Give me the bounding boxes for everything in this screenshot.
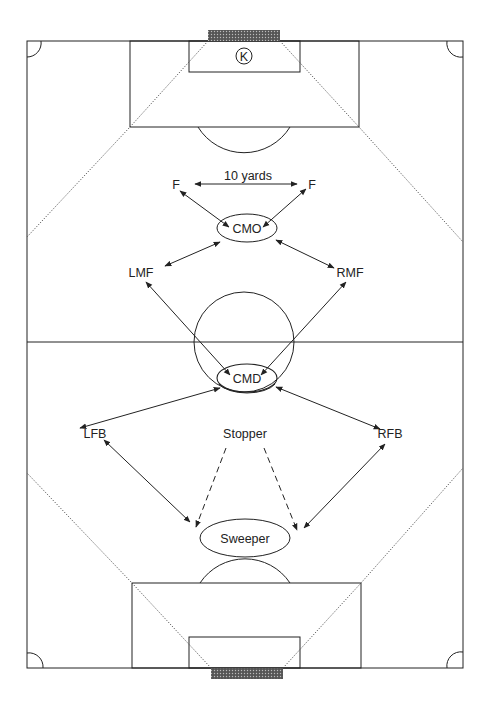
top-penalty-arc <box>198 127 290 153</box>
arrow-rfb-cmd <box>276 387 380 429</box>
arrow-rmf-cmo <box>276 240 334 268</box>
position-lfb: LFB <box>84 427 107 441</box>
arrow-stopper-right <box>264 448 297 530</box>
position-cmo: CMO <box>232 222 261 236</box>
arrow-f-right-cmo <box>263 189 306 227</box>
position-f-right: F <box>308 178 316 192</box>
bottom-penalty-arc <box>200 559 290 583</box>
field-markings <box>27 41 463 668</box>
coverage-lines <box>27 41 463 668</box>
stopper-dashed-arrows <box>196 448 297 530</box>
position-stopper: Stopper <box>223 427 267 441</box>
arrow-lfb-sweeper <box>104 440 190 522</box>
bottom-goal-area <box>189 637 300 668</box>
position-rfb: RFB <box>378 427 403 441</box>
corner-arc-bottom-right <box>447 652 463 668</box>
arrow-stopper-left <box>196 448 226 527</box>
arrow-lfb-cmd <box>80 388 220 428</box>
position-rmf: RMF <box>336 266 363 280</box>
position-f-left: F <box>172 178 180 192</box>
arrow-rmf-cmd <box>261 282 346 375</box>
keeper-label: K <box>240 50 249 64</box>
corner-arc-top-right <box>447 41 463 57</box>
soccer-field-diagram: K 10 yards F F CMO LMF RMF CMD LFB RFB S… <box>0 0 489 706</box>
arrow-lmf-cmo <box>165 242 220 266</box>
top-goal-net <box>208 30 280 41</box>
bottom-goal-net <box>211 668 283 679</box>
position-lmf: LMF <box>129 266 154 280</box>
field-boundary <box>27 41 463 668</box>
bottom-penalty-box <box>132 583 361 668</box>
position-sweeper: Sweeper <box>220 532 269 546</box>
arrow-lmf-cmd <box>146 282 230 375</box>
corner-arc-bottom-left <box>27 653 43 668</box>
movement-arrows <box>80 184 385 528</box>
position-cmd: CMD <box>233 372 261 386</box>
arrow-f-left-cmo <box>180 191 229 227</box>
distance-label: 10 yards <box>224 169 272 183</box>
arrow-rfb-sweeper <box>304 444 385 528</box>
corner-arc-top-left <box>27 41 41 57</box>
